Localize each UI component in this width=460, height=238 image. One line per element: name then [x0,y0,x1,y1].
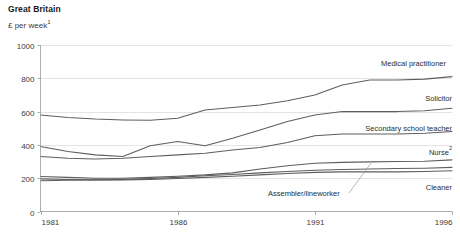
y-tick-label: 200 [21,175,35,184]
y-tick-label: 0 [30,209,35,218]
x-tick-label: 1986 [170,218,188,227]
series-label: Secondary school teacher [365,124,452,133]
x-axis-tick-labels: 1981198619911996 [42,218,454,227]
x-tick-label: 1996 [435,218,453,227]
series-label: Medical practitioner [381,59,447,68]
series-label: Cleaner [426,183,453,192]
y-tick-label: 400 [21,142,35,151]
chart-container: Great Britain £ per week1 02004006008001… [0,0,460,238]
x-tick-label: 1981 [42,218,60,227]
series-line [41,77,453,121]
assembler-leader-line [349,163,371,193]
series-label: Assembler/lineworker [268,189,340,198]
y-tick-label: 800 [21,75,35,84]
series-label: Nurse2 [429,145,452,158]
leader-lines-group [349,163,371,193]
y-tick-label: 600 [21,109,35,118]
x-tick-label: 1991 [307,218,325,227]
y-axis-tick-labels: 02004006008001000 [17,42,35,218]
line-chart-plot: 02004006008001000 1981198619911996 Medic… [0,0,460,238]
series-label: Solicitor [425,94,452,103]
y-tick-label: 1000 [17,42,35,51]
